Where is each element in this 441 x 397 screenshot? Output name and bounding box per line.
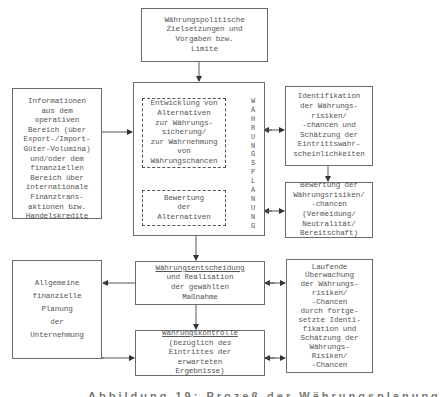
monitoring-box: Laufende Überwachung der Währungs- risik… — [286, 259, 373, 373]
control-text: (bezüglich des Eintrittes der erwarteten… — [169, 339, 231, 377]
information-box: Informationen aus dem operativen Bereich… — [12, 88, 102, 219]
control-box: Währungskontrolle (bezüglich des Eintrit… — [135, 330, 265, 376]
decision-text: und Realisation der gewählten Maßnahme — [167, 273, 234, 302]
alternatives-text: Entwicklung von Alternativen zur Währung… — [151, 99, 218, 166]
control-title: Währungskontrolle — [162, 329, 238, 339]
general-planning-text: Allgemeine finanzielle Planung der Unter… — [30, 277, 83, 342]
information-text: Informationen aus dem operativen Bereich… — [24, 97, 91, 222]
alternatives-evaluation-box: Bewertung der Alternativen — [142, 190, 226, 226]
policy-goals-box: Währungspolitische Zielsetzungen und Vor… — [141, 8, 268, 62]
monitoring-text: Laufende Überwachung der Währungs- risik… — [298, 263, 360, 370]
alternatives-evaluation-text: Bewertung der Alternativen — [157, 194, 210, 223]
decision-title: Währungsentscheidung — [155, 264, 244, 274]
risk-evaluation-text: Bewertung der Währungsrisiken/ -chancen … — [293, 181, 364, 239]
policy-goals-text: Währungspolitische Zielsetzungen und Vor… — [164, 16, 244, 54]
risk-evaluation-box: Bewertung der Währungsrisiken/ -chancen … — [285, 182, 373, 238]
decision-box: Währungsentscheidung und Realisation der… — [135, 261, 265, 305]
figure-caption: Abbildung 19: Prozeß der Währungsplanung — [88, 390, 441, 397]
identification-text: Identifikation der Währungs- risiken/ -c… — [293, 92, 364, 159]
alternatives-box: Entwicklung von Alternativen zur Währung… — [142, 98, 226, 168]
identification-box: Identifikation der Währungs- risiken/ -c… — [285, 86, 373, 166]
planning-vertical-label: WÄHRUNGSPLANUNG — [248, 97, 258, 231]
general-planning-box: Allgemeine finanzielle Planung der Unter… — [12, 260, 102, 359]
